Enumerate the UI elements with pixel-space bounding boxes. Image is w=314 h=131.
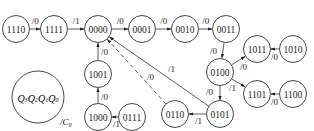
state-label: 1100 <box>284 90 303 100</box>
state-node-0101: 0101 <box>207 101 234 128</box>
state-node-1000: 1000 <box>85 104 112 131</box>
transition-label: /0 <box>101 92 109 102</box>
state-node-1001: 1001 <box>85 61 112 88</box>
transition-label: /0 <box>206 87 214 97</box>
transition-label: /1 <box>195 116 202 126</box>
state-label: 0101 <box>211 110 230 120</box>
state-node-0011: 0011 <box>213 16 240 43</box>
state-diagram: /0/1/0/0/0/0/0/0/1/0/0/1/1/0/1/0/0 11101… <box>0 0 314 131</box>
legend-state-label: Q3Q2Q1Q0 <box>18 93 59 104</box>
state-node-1110: 1110 <box>3 16 30 43</box>
state-label: 1001 <box>89 70 108 80</box>
state-label: 1111 <box>45 25 63 35</box>
state-node-0010: 0010 <box>172 16 199 43</box>
state-node-1101: 1101 <box>244 81 271 108</box>
transition-label: /0 <box>147 72 155 82</box>
state-node-0110: 0110 <box>162 101 189 128</box>
transition-label: /0 <box>101 47 109 57</box>
transition-arrow <box>222 42 224 58</box>
transition-label: /1 <box>73 16 80 26</box>
transition-label: /0 <box>240 62 248 72</box>
state-label: 0001 <box>133 25 152 35</box>
state-label: 1101 <box>248 90 267 100</box>
transition-label: /1 <box>229 83 236 93</box>
state-node-0111: 0111 <box>119 104 146 131</box>
legend: Q3Q2Q1Q0 /C0 <box>12 71 72 128</box>
transition-arrow <box>109 37 208 106</box>
state-label: 0100 <box>211 68 230 78</box>
transition-arrow <box>107 39 166 104</box>
state-label: 0000 <box>89 25 108 35</box>
transition-label: /0 <box>271 97 279 107</box>
state-label: 0011 <box>217 25 236 35</box>
state-node-1100: 1100 <box>280 81 307 108</box>
transition-label: /0 <box>160 16 168 26</box>
state-label: 1010 <box>284 45 303 55</box>
state-node-0100: 0100 <box>207 59 234 86</box>
state-label: 0111 <box>123 113 142 123</box>
transition-label: /0 <box>210 46 218 56</box>
transition-label: /0 <box>271 52 279 62</box>
legend-output-label: /C0 <box>59 117 72 128</box>
transition-label: /1 <box>168 64 175 74</box>
transition-label: /0 <box>202 16 210 26</box>
state-label: 1110 <box>7 25 26 35</box>
state-node-1111: 1111 <box>41 16 68 43</box>
state-node-0001: 0001 <box>129 16 156 43</box>
transition-label: /0 <box>117 16 125 26</box>
state-node-0000: 0000 <box>85 16 112 43</box>
state-label: 0110 <box>166 110 185 120</box>
state-node-1011: 1011 <box>244 36 271 63</box>
state-label: 1000 <box>89 113 108 123</box>
state-label: 0010 <box>176 25 195 35</box>
transition-label: /0 <box>32 16 40 26</box>
state-node-1010: 1010 <box>280 36 307 63</box>
state-label: 1011 <box>248 45 267 55</box>
